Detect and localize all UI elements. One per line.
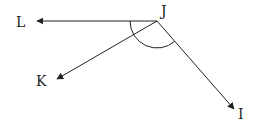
- angle-arc: [130, 21, 175, 48]
- ray-ji: [157, 21, 234, 109]
- point-label-l: L: [16, 14, 25, 30]
- ray-jk: [57, 21, 157, 79]
- angle-diagram: J L K I: [0, 0, 258, 123]
- diagram-svg: J L K I: [0, 0, 258, 123]
- vertex-label-j: J: [159, 3, 167, 19]
- point-label-i: I: [238, 106, 244, 122]
- point-label-k: K: [36, 73, 47, 89]
